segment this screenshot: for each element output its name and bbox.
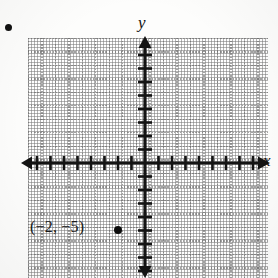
y-axis-label: y <box>138 14 146 31</box>
plotted-point-marker <box>114 226 122 234</box>
problem-number-bullet-icon <box>5 24 12 31</box>
figure-canvas: y x (−2, −5) <box>0 0 278 278</box>
plotted-point-label: (−2, −5) <box>30 219 84 235</box>
x-axis-label: x <box>263 152 271 169</box>
graph-paper-grid <box>28 38 268 278</box>
grid-horizontal-lines <box>28 38 268 278</box>
